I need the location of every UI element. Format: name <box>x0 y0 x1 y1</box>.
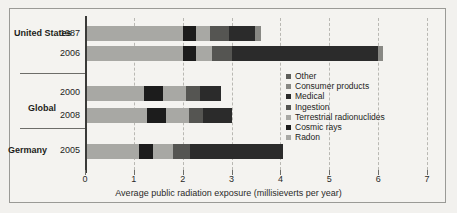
y-axis-line <box>85 16 87 173</box>
x-tick-label-2: 2 <box>180 174 185 184</box>
bar-segment-terrestrial-radionuclides[interactable] <box>163 86 186 101</box>
bar-segment-consumer-products[interactable] <box>378 46 383 61</box>
chart-legend: OtherConsumer productsMedicalIngestionTe… <box>286 72 385 143</box>
bar-segment-radon[interactable] <box>85 108 147 123</box>
x-tick-label-7: 7 <box>424 174 429 184</box>
legend-item-other[interactable]: Other <box>286 72 385 82</box>
bar-segment-ingestion[interactable] <box>212 46 232 61</box>
bar-segment-cosmic-rays[interactable] <box>183 46 196 61</box>
legend-swatch-icon <box>286 94 291 99</box>
bar-segment-radon[interactable] <box>85 144 139 159</box>
bar-segment-terrestrial-radionuclides[interactable] <box>196 26 210 41</box>
bar-segment-ingestion[interactable] <box>186 86 200 101</box>
bar-germany-2005[interactable] <box>85 144 427 159</box>
bar-segment-consumer-products[interactable] <box>255 26 261 41</box>
bar-segment-medical[interactable] <box>190 144 283 159</box>
x-tick-label-5: 5 <box>327 174 332 184</box>
legend-item-cosmic-rays[interactable]: Cosmic rays <box>286 122 385 132</box>
legend-label: Medical <box>295 92 324 101</box>
year-label-2005: 2005 <box>52 145 80 155</box>
legend-item-radon[interactable]: Radon <box>286 133 385 143</box>
legend-swatch-icon <box>286 84 291 89</box>
legend-swatch-icon <box>286 135 291 140</box>
bar-segment-radon[interactable] <box>85 46 183 61</box>
legend-swatch-icon <box>286 74 291 79</box>
bar-segment-medical[interactable] <box>229 26 255 41</box>
legend-label: Consumer products <box>295 82 369 91</box>
bar-segment-ingestion[interactable] <box>173 144 190 159</box>
legend-label: Terrestrial radionuclides <box>295 113 385 122</box>
bar-segment-cosmic-rays[interactable] <box>139 144 154 159</box>
bar-segment-radon[interactable] <box>85 86 144 101</box>
x-axis-label: Average public radiation exposure (milli… <box>0 188 457 198</box>
bar-segment-ingestion[interactable] <box>189 108 203 123</box>
bar-united-states-2006[interactable] <box>85 46 427 61</box>
bar-segment-terrestrial-radionuclides[interactable] <box>153 144 173 159</box>
bar-segment-medical[interactable] <box>203 108 231 123</box>
year-label-1987: 1987 <box>52 28 80 38</box>
bar-segment-cosmic-rays[interactable] <box>147 108 166 123</box>
gridline-7 <box>427 18 429 170</box>
group-separator-2 <box>20 128 86 129</box>
legend-item-consumer-products[interactable]: Consumer products <box>286 82 385 92</box>
x-tick-label-0: 0 <box>82 174 87 184</box>
x-tick-label-6: 6 <box>376 174 381 184</box>
bar-segment-radon[interactable] <box>85 26 183 41</box>
bar-segment-terrestrial-radionuclides[interactable] <box>166 108 189 123</box>
legend-swatch-icon <box>286 125 291 130</box>
legend-item-ingestion[interactable]: Ingestion <box>286 102 385 112</box>
legend-label: Radon <box>295 133 320 142</box>
x-tick-label-3: 3 <box>229 174 234 184</box>
year-label-2008: 2008 <box>52 110 80 120</box>
bar-segment-cosmic-rays[interactable] <box>144 86 163 101</box>
bar-segment-medical[interactable] <box>232 46 379 61</box>
year-label-2000: 2000 <box>52 87 80 97</box>
legend-label: Cosmic rays <box>295 123 342 132</box>
legend-swatch-icon <box>286 105 291 110</box>
x-tick-label-1: 1 <box>131 174 136 184</box>
legend-item-medical[interactable]: Medical <box>286 92 385 102</box>
group-separator-1 <box>20 73 86 74</box>
legend-item-terrestrial-radionuclides[interactable]: Terrestrial radionuclides <box>286 112 385 122</box>
legend-label: Ingestion <box>295 103 330 112</box>
group-label-germany: Germany <box>8 145 52 155</box>
legend-swatch-icon <box>286 115 291 120</box>
bar-united-states-1987[interactable] <box>85 26 427 41</box>
x-tick-label-4: 4 <box>278 174 283 184</box>
bar-segment-terrestrial-radionuclides[interactable] <box>196 46 212 61</box>
legend-label: Other <box>295 72 316 81</box>
bar-segment-ingestion[interactable] <box>210 26 229 41</box>
chart-figure: United States 1987 2006 Global 2000 2008… <box>0 0 457 213</box>
bar-segment-medical[interactable] <box>200 86 221 101</box>
bar-segment-cosmic-rays[interactable] <box>183 26 196 41</box>
year-label-2006: 2006 <box>52 48 80 58</box>
